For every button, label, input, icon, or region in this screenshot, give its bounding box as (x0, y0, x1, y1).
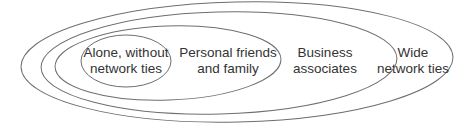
label-alone-line1: Alone, without (84, 45, 169, 60)
label-personal-line1: Personal friends (179, 45, 277, 60)
label-business-line1: Business (298, 45, 353, 60)
label-wide-line1: Wide (398, 45, 429, 60)
label-alone-line2: network ties (90, 61, 162, 76)
label-wide-line2: network ties (377, 61, 449, 76)
ring-personal-friends-family: Personal friends and family (54, 22, 282, 104)
label-business-line2: associates (293, 61, 357, 76)
label-personal-line2: and family (197, 61, 259, 76)
ring-alone-without-network-ties: Alone, without network ties (81, 35, 171, 87)
network-ties-diagram: Wide network ties Business associates Pe… (0, 0, 471, 126)
